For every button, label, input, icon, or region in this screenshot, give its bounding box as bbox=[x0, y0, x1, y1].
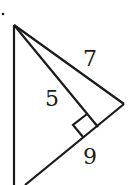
label-base-segment: 9 bbox=[83, 144, 97, 169]
label-altitude: 5 bbox=[45, 86, 59, 111]
label-hypotenuse: 7 bbox=[83, 46, 97, 71]
stray-dot bbox=[2, 13, 5, 16]
triangle-diagram: 7 5 9 bbox=[0, 0, 133, 185]
right-angle-marker bbox=[73, 114, 87, 137]
base-line bbox=[25, 104, 124, 185]
